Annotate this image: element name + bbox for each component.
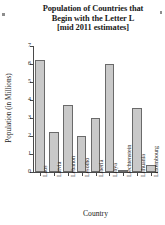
y-tick-label: 1 <box>28 150 31 156</box>
x-tick-mark <box>54 173 55 176</box>
x-tick-label: Latvia <box>56 162 62 177</box>
plot-area: 01234567 LaosLatviaLebanonLesothoLiberia… <box>33 46 158 173</box>
x-axis-title: Country <box>33 209 158 218</box>
scan-artifact-left <box>2 13 5 16</box>
x-tick-label: Lebanon <box>70 156 76 177</box>
x-tick-label: Luxembourg <box>153 146 159 177</box>
x-tick-mark <box>40 173 41 176</box>
x-tick-mark <box>68 173 69 176</box>
chart-title-line-1: Population of Countries that <box>26 4 160 14</box>
x-tick-mark <box>123 173 124 176</box>
y-tick-label: 0 <box>28 168 31 174</box>
y-tick-label: 6 <box>28 60 31 66</box>
x-tick-mark <box>96 173 97 176</box>
y-tick-label: 7 <box>28 42 31 48</box>
x-tick-label: Lesotho <box>84 158 90 177</box>
x-tick-mark <box>151 173 152 176</box>
x-tick-label: Lithuania <box>140 154 146 177</box>
y-axis-title-text: Population (in Millions) <box>5 48 13 168</box>
chart-title-line-3: [mid 2011 estimates] <box>26 23 160 33</box>
x-tick-label: Laos <box>42 165 48 177</box>
chart-title: Population of Countries that Begin with … <box>26 4 160 33</box>
bar-chart-figure: Population of Countries that Begin with … <box>0 0 165 225</box>
bar <box>35 60 45 173</box>
x-tick-label: Libya <box>112 163 118 177</box>
bar <box>105 64 115 172</box>
scan-artifact-right <box>160 11 162 14</box>
y-tick-label: 2 <box>28 132 31 138</box>
x-tick-mark <box>137 173 138 176</box>
x-tick-mark <box>109 173 110 176</box>
y-tick-label: 4 <box>28 96 31 102</box>
x-tick-label: Liechtenstein <box>126 145 132 177</box>
y-tick-label: 3 <box>28 114 31 120</box>
chart-title-line-2: Begin with the Letter L <box>26 14 160 24</box>
x-tick-label: Liberia <box>98 160 104 177</box>
y-tick-label: 5 <box>28 78 31 84</box>
x-tick-mark <box>82 173 83 176</box>
